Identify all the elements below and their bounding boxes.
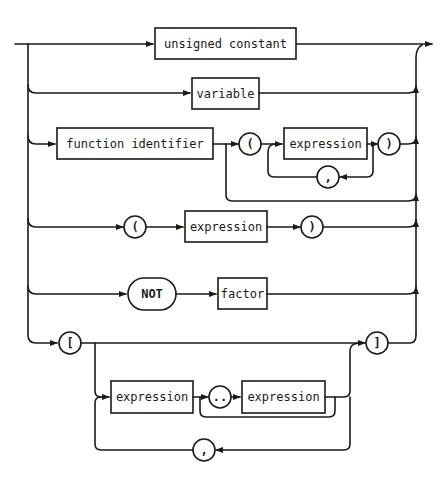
close-paren-label: ): [385, 137, 392, 151]
row-variable: variable: [28, 78, 416, 109]
row-set-constructor: [ ] expression .. expression ,: [59, 332, 416, 461]
set-expression-label-2: expression: [247, 390, 319, 404]
syntax-diagram-factor: unsigned constant variable function iden…: [0, 0, 448, 478]
comma-label-set: ,: [200, 443, 207, 457]
expression-label-2: expression: [190, 220, 262, 234]
not-label: NOT: [141, 287, 163, 301]
open-paren-label: (: [246, 137, 253, 151]
variable-label: variable: [197, 87, 255, 101]
close-bracket-label: ]: [373, 336, 380, 350]
open-paren-label-2: (: [131, 220, 138, 234]
unsigned-constant-label: unsigned constant: [164, 37, 287, 51]
function-identifier-label: function identifier: [66, 137, 203, 151]
expression-label: expression: [289, 137, 361, 151]
row-parenthesized-expression: ( expression ): [28, 211, 416, 242]
row-unsigned-constant: unsigned constant: [155, 28, 296, 59]
close-paren-label-2: ): [308, 220, 315, 234]
comma-label-args: ,: [324, 170, 331, 184]
set-expression-label-1: expression: [116, 390, 188, 404]
range-label: ..: [213, 390, 227, 404]
factor-label: factor: [221, 287, 264, 301]
open-bracket-label: [: [66, 336, 73, 350]
row-function-call: function identifier ( expression ) ,: [28, 128, 416, 201]
row-not-factor: NOT factor: [28, 278, 416, 310]
